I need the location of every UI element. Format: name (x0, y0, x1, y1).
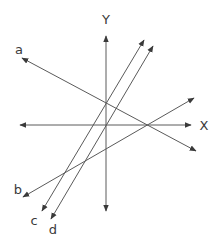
line-a (22, 58, 196, 151)
y-axis-label: Y (102, 13, 110, 26)
line-d-label: d (49, 223, 57, 236)
line-c-label: c (30, 214, 37, 227)
x-axis-label: X (200, 119, 209, 132)
line-d (51, 46, 153, 219)
coordinate-diagram (0, 0, 218, 245)
line-a-label: a (15, 43, 23, 56)
line-b-label: b (14, 183, 22, 196)
line-b (23, 98, 194, 197)
